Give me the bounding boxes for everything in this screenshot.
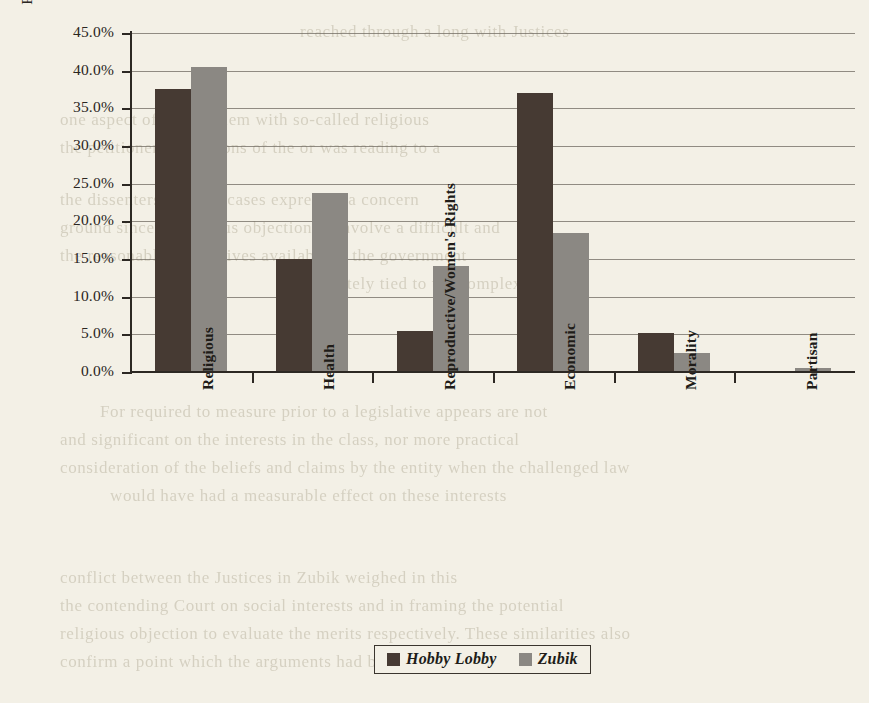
legend-label: Hobby Lobby [406,650,497,668]
gridline [131,108,855,109]
y-tick-label: 45.0% [40,23,114,41]
bar [397,331,433,372]
x-category-label: Reproductive/Women's Rights [441,183,459,390]
y-tick-mark [122,108,132,110]
y-tick-label: 15.0% [40,249,114,267]
x-category-label: Religious [199,327,217,390]
y-tick-mark [122,146,132,148]
gridline [131,33,855,34]
gridline [131,71,855,72]
y-tick-label: 35.0% [40,98,114,116]
chart-legend: Hobby LobbyZubik [374,645,591,674]
gridline [131,146,855,147]
y-tick-label: 20.0% [40,211,114,229]
y-tick-label: 40.0% [40,61,114,79]
y-tick-mark [122,297,132,299]
y-axis-title: Percent of Total Framing Statements [14,0,40,59]
y-tick-label: 30.0% [40,136,114,154]
bar [517,93,553,372]
x-category-label: Health [320,344,338,390]
y-axis-line [130,31,132,374]
y-tick-label: 25.0% [40,174,114,192]
legend-swatch-icon [519,653,532,666]
x-tick-mark [372,372,374,383]
x-category-label: Partisan [803,332,821,390]
y-tick-mark [122,184,132,186]
x-category-label: Economic [561,323,579,390]
legend-label: Zubik [538,650,578,668]
bar [276,259,312,372]
x-tick-mark [734,372,736,383]
legend-entry: Hobby Lobby [387,650,497,668]
y-tick-label: 5.0% [40,324,114,342]
y-tick-mark [122,33,132,35]
x-category-label: Morality [682,330,700,390]
bar [638,333,674,372]
legend-entry: Zubik [519,650,578,668]
legend-swatch-icon [387,653,400,666]
gridline [131,334,855,335]
gridline [131,184,855,185]
bar [155,89,191,372]
x-tick-mark [614,372,616,383]
y-tick-mark [122,259,132,261]
x-tick-mark [252,372,254,383]
gridline [131,297,855,298]
y-tick-label: 10.0% [40,287,114,305]
gridline [131,221,855,222]
gridline [131,259,855,260]
y-tick-mark [122,334,132,336]
x-tick-mark [493,372,495,383]
y-tick-mark [122,221,132,223]
y-tick-label: 0.0% [40,362,114,380]
y-tick-mark [122,71,132,73]
bar-chart-figure: Percent of Total Framing Statements 0.0%… [0,0,869,703]
plot-area [131,33,855,372]
y-tick-mark [122,372,132,374]
